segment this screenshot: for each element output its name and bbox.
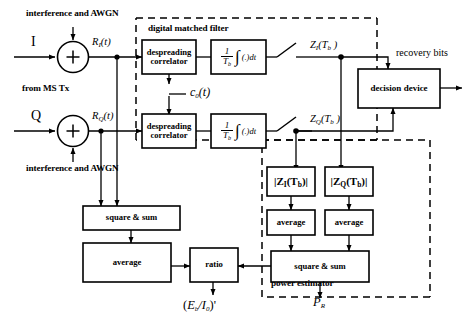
switch-q-lever <box>277 117 296 131</box>
fraction-one-over-tb-i: 1 Tb <box>221 47 233 67</box>
input-label-q: Q <box>31 109 41 123</box>
mag-q-text: |ZQ(Tb)| <box>331 175 368 189</box>
integrand-dt-i: (.)dt <box>242 52 256 62</box>
integral-icon-i: ∫ <box>235 50 240 64</box>
block-decision-device[interactable]: decision device <box>358 69 440 108</box>
block-average-q[interactable]: average <box>325 210 373 235</box>
signal-label-ri: RI(t) <box>92 37 111 49</box>
block-square-sum-noise[interactable]: square & sum <box>83 206 180 230</box>
signal-label-code: c0(t) <box>190 86 210 100</box>
integral-icon-q: ∫ <box>235 124 240 138</box>
block-average-noise[interactable]: average <box>83 243 171 282</box>
switch-i-lever <box>277 43 296 57</box>
block-diagram-canvas: I Q from MS Tx interference and AWGN int… <box>0 0 470 325</box>
zi-to-decision <box>341 57 388 69</box>
output-label-pr: PR <box>313 296 325 310</box>
noise-label-bottom: interference and AWGN <box>26 164 119 173</box>
block-magnitude-i[interactable]: |ZI(Tb)| <box>267 167 315 196</box>
recovery-bits-label: recovery bits <box>396 48 448 58</box>
block-despreading-correlator-q[interactable]: despreading correlator <box>142 114 196 148</box>
tb-denominator-q: Tb <box>221 130 233 141</box>
fraction-one-over-tb-q: 1 Tb <box>221 121 233 141</box>
from-ms-tx-note: from MS Tx <box>22 84 69 93</box>
mag-i-text: |ZI(Tb)| <box>274 175 308 189</box>
block-square-sum-power[interactable]: square & sum <box>271 251 369 282</box>
integrand-dt-q: (.)dt <box>242 126 256 136</box>
signal-label-zi: ZI(Tb ) <box>310 40 337 52</box>
signal-label-rq: RQ(t) <box>92 111 113 123</box>
block-ratio[interactable]: ratio <box>190 248 238 282</box>
block-integrator-i[interactable]: 1 Tb ∫ (.)dt <box>211 40 266 74</box>
dmf-region-title: digital matched filter <box>148 24 228 33</box>
tb-denominator-i: Tb <box>221 56 233 67</box>
block-magnitude-q[interactable]: |ZQ(Tb)| <box>325 167 373 196</box>
block-average-i[interactable]: average <box>267 210 315 235</box>
signal-label-zq: ZQ(Tb ) <box>310 114 340 126</box>
noise-label-top: interference and AWGN <box>26 9 119 18</box>
input-label-i: I <box>31 35 36 49</box>
block-integrator-q[interactable]: 1 Tb ∫ (.)dt <box>211 114 266 148</box>
output-label-ebi0: (Eb/I0)' <box>183 299 216 313</box>
block-despreading-correlator-i[interactable]: despreading correlator <box>142 40 196 74</box>
